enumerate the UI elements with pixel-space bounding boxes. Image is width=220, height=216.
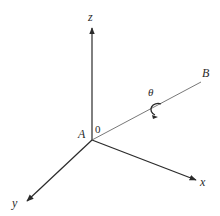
z-axis: z — [87, 10, 93, 140]
origin-zero-label: 0 — [95, 123, 101, 135]
y-axis: y — [11, 140, 92, 210]
x-axis: x — [92, 140, 206, 189]
line-ab: B — [92, 66, 210, 140]
coordinate-diagram: z x y B A 0 θ — [0, 0, 220, 216]
z-axis-label: z — [87, 10, 93, 24]
theta-label: θ — [148, 86, 154, 98]
y-axis-label: y — [11, 196, 18, 210]
point-a-label: A — [77, 127, 86, 141]
x-axis-label: x — [199, 175, 206, 189]
point-b-label: B — [202, 66, 210, 80]
